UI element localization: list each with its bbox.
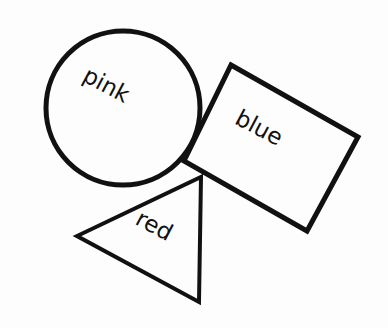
rectangle-label: blue [231,104,287,150]
triangle-label: red [132,205,177,246]
rectangle-shape: blue [184,65,358,231]
circle-shape: pink [46,31,200,185]
shapes-diagram: pink blue red [0,0,388,328]
circle-label: pink [79,62,135,108]
triangle-shape: red [77,177,201,302]
